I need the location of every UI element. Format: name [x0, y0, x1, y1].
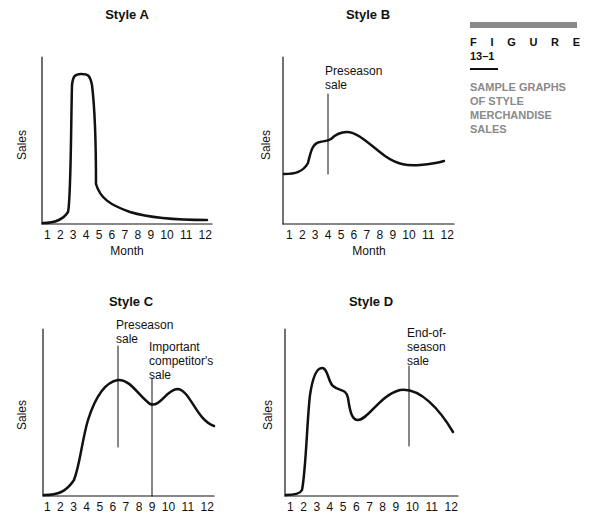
tick: 3 — [313, 500, 320, 514]
chart-d-annotation-end-of-season: End-of- season sale — [407, 326, 446, 368]
tick: 6 — [353, 500, 360, 514]
tick: 4 — [83, 500, 90, 514]
tick: 11 — [426, 500, 438, 514]
tick: 2 — [57, 228, 64, 242]
chart-b-ylabel: Sales — [259, 130, 273, 160]
tick: 10 — [162, 500, 175, 514]
tick: 5 — [340, 500, 347, 514]
tick: 6 — [109, 228, 116, 242]
tick: 1 — [44, 500, 51, 514]
chart-a-xlabel: Month — [87, 244, 167, 258]
chart-d-title: Style D — [311, 294, 431, 309]
tick: 10 — [406, 500, 419, 514]
tick: 7 — [364, 228, 371, 242]
tick: 12 — [445, 500, 458, 514]
chart-b-title: Style B — [308, 7, 428, 22]
tick: 12 — [199, 228, 212, 242]
tick: 4 — [327, 500, 334, 514]
chart-a-curve — [43, 74, 207, 223]
chart-b-xlabel: Month — [329, 244, 409, 258]
tick: 1 — [44, 228, 51, 242]
tick: 9 — [149, 500, 156, 514]
annotation-line: competitor's — [149, 354, 213, 368]
tick: 5 — [96, 500, 103, 514]
tick: 7 — [123, 500, 130, 514]
tick: 8 — [136, 500, 143, 514]
chart-c-xticks: 123456789101112 — [44, 500, 214, 514]
chart-d-xticks: 123456789101112 — [287, 500, 458, 514]
tick: 1 — [287, 500, 294, 514]
tick: 4 — [83, 228, 90, 242]
tick: 3 — [312, 228, 319, 242]
tick: 7 — [122, 228, 129, 242]
tick: 3 — [70, 228, 77, 242]
chart-c-title: Style C — [71, 294, 191, 309]
tick: 8 — [376, 228, 383, 242]
tick: 6 — [351, 228, 358, 242]
chart-b-xticks: 123456789101112 — [286, 228, 454, 242]
tick: 9 — [393, 500, 400, 514]
tick: 11 — [422, 228, 434, 242]
annotation-line: season — [407, 340, 446, 354]
annotation-line: sale — [407, 354, 446, 368]
annotation-line: Preseason — [325, 64, 382, 78]
chart-c-curve — [44, 380, 214, 495]
chart-d-curve — [286, 368, 453, 495]
tick: 4 — [325, 228, 332, 242]
tick: 1 — [286, 228, 293, 242]
chart-c-ylabel: Sales — [15, 400, 29, 430]
chart-b-annotation-preseason: Preseason sale — [325, 64, 382, 92]
tick: 9 — [389, 228, 396, 242]
chart-a-axes — [42, 57, 212, 224]
annotation-line: sale — [325, 78, 382, 92]
tick: 2 — [299, 228, 306, 242]
annotation-line: End-of- — [407, 326, 446, 340]
chart-a-xticks: 123456789101112 — [44, 228, 212, 242]
plots-canvas — [0, 0, 596, 531]
chart-d-ylabel: Sales — [261, 400, 275, 430]
tick: 5 — [338, 228, 345, 242]
chart-b-curve — [284, 132, 444, 174]
tick: 7 — [366, 500, 373, 514]
tick: 3 — [70, 500, 77, 514]
chart-a-title: Style A — [67, 7, 187, 22]
annotation-line: sale — [149, 368, 213, 382]
tick: 12 — [200, 500, 213, 514]
tick: 11 — [182, 500, 194, 514]
tick: 10 — [160, 228, 173, 242]
tick: 2 — [300, 500, 307, 514]
annotation-line: Important — [149, 340, 213, 354]
tick: 12 — [441, 228, 454, 242]
tick: 5 — [96, 228, 103, 242]
tick: 10 — [402, 228, 415, 242]
chart-a-ylabel: Sales — [15, 130, 29, 160]
tick: 9 — [147, 228, 154, 242]
tick: 8 — [134, 228, 141, 242]
tick: 8 — [379, 500, 386, 514]
tick: 6 — [109, 500, 116, 514]
tick: 11 — [180, 228, 192, 242]
annotation-line: Preseason — [116, 318, 173, 332]
tick: 2 — [57, 500, 64, 514]
chart-c-annotation-competitor: Important competitor's sale — [149, 340, 213, 382]
